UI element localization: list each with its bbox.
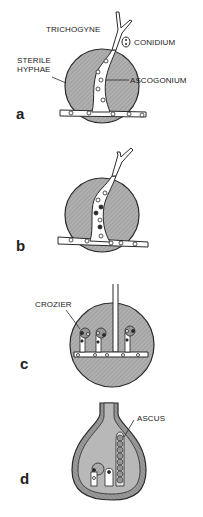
conidium bbox=[122, 37, 130, 47]
label-crozier: CROZIER bbox=[35, 300, 72, 309]
trichogyne bbox=[112, 148, 133, 176]
label-conidium: CONIDIUM bbox=[134, 38, 175, 47]
panel-d-mature-perithecium bbox=[72, 403, 146, 500]
label-trichogyne: TRICHOGYNE bbox=[46, 25, 100, 34]
panel-letter-c: c bbox=[20, 355, 28, 372]
label-sterile-hyphae: STERILE HYPHAE bbox=[17, 56, 51, 74]
label-ascus: ASCUS bbox=[137, 414, 165, 423]
ostiole-hypha bbox=[113, 284, 118, 352]
panel-b-fertilization-stage bbox=[58, 148, 148, 252]
panel-letter-b: b bbox=[16, 237, 25, 254]
sterile-hyphae-pointer bbox=[52, 77, 66, 83]
panel-letter-a: a bbox=[16, 105, 24, 122]
panel-c-crozier-stage bbox=[66, 284, 154, 387]
panel-letter-d: d bbox=[20, 470, 29, 487]
label-ascogonium: ASCOGONIUM bbox=[130, 76, 187, 85]
